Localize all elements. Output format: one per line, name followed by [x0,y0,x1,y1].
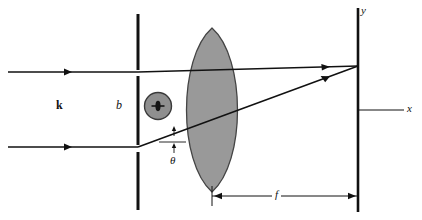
diffracted-ray-upper-arrowhead [321,64,330,71]
incident-ray-upper-arrowhead [64,69,72,76]
label-angle-theta: θ [170,155,175,166]
dimension-arrowhead-right [348,193,356,199]
dimension-arrowhead-left [214,193,222,199]
optics-diagram-figure: k b θ f y x [0,0,422,220]
label-axis-x: x [407,103,412,114]
incident-ray-lower-arrowhead [64,144,72,151]
label-slit-width-b: b [116,99,122,111]
theta-tick-upper-arrowhead [172,126,176,131]
theta-tick-lower-arrowhead [172,143,176,148]
label-focal-length-f: f [272,189,281,200]
label-wavevector-k: k [56,99,63,111]
converging-lens [187,28,238,192]
label-axis-y: y [361,5,366,16]
diagram-canvas [0,0,422,220]
